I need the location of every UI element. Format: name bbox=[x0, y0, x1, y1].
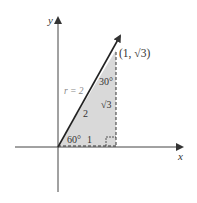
adjacent-label: 1 bbox=[87, 134, 92, 145]
angle-top-label: 30° bbox=[99, 76, 113, 87]
x-axis-label: x bbox=[177, 150, 183, 162]
opposite-label: √3 bbox=[101, 99, 112, 110]
hypotenuse-label: 2 bbox=[83, 108, 88, 119]
y-axis-label: y bbox=[47, 14, 53, 26]
diagram-canvas: y x (1, √3) 30° r = 2 √3 2 60° 1 bbox=[0, 0, 197, 203]
point-label: (1, √3) bbox=[119, 47, 150, 60]
angle-origin-label: 60° bbox=[67, 134, 81, 145]
radius-label: r = 2 bbox=[64, 86, 84, 96]
